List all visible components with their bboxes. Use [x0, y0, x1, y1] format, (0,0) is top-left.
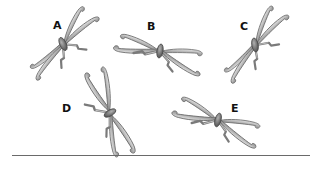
- wing: [160, 51, 201, 78]
- figure-a: [16, 0, 113, 82]
- label-c: C: [240, 20, 248, 33]
- squiggle: [258, 42, 279, 47]
- label-e: E: [231, 102, 239, 115]
- label-a: A: [53, 19, 62, 32]
- label-d: D: [62, 102, 71, 115]
- squiggle: [66, 44, 87, 51]
- figure-c: [206, 0, 305, 86]
- figure-d: [83, 66, 138, 157]
- label-b: B: [147, 20, 155, 33]
- dragonfly-diagram: A B C D E: [0, 0, 310, 173]
- figure-b: [113, 33, 202, 78]
- figure-e: [171, 95, 260, 150]
